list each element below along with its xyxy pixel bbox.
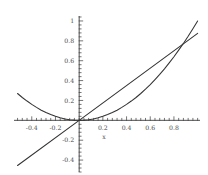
plot-canvas: -0.4-0.20.20.40.60.8-0.4-0.20.20.40.60.8… (0, 0, 208, 175)
x-tick-label: 0.6 (145, 124, 155, 131)
x-axis-label: x (102, 133, 106, 140)
y-tick-label: 0.4 (64, 77, 74, 84)
y-tick-label: 1 (70, 17, 74, 24)
y-tick-label: -0.4 (62, 156, 74, 163)
axes-group (14, 16, 200, 172)
curve-parabola (18, 21, 198, 120)
y-tick-label: -0.2 (62, 136, 74, 143)
y-tick-label: 0.8 (64, 37, 74, 44)
x-tick-label: 0.4 (122, 124, 132, 131)
x-tick-label: 0.8 (169, 124, 179, 131)
x-tick-label: 0.2 (98, 124, 108, 131)
curve-line (18, 33, 198, 165)
x-tick-label: -0.2 (49, 124, 61, 131)
tick-labels-group: -0.4-0.20.20.40.60.8-0.4-0.20.20.40.60.8… (26, 17, 179, 163)
curves-group (18, 21, 198, 166)
plot-figure: -0.4-0.20.20.40.60.8-0.4-0.20.20.40.60.8… (0, 0, 208, 175)
y-tick-label: 0.2 (64, 97, 74, 104)
x-tick-label: -0.4 (26, 124, 38, 131)
ticks-group (18, 17, 198, 172)
y-tick-label: 0.6 (64, 57, 74, 64)
